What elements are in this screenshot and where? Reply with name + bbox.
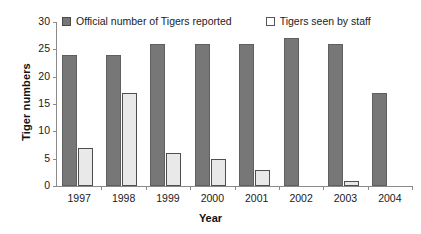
- y-tick-label: 25: [10, 42, 50, 55]
- y-tick: 10: [0, 131, 57, 132]
- y-tick-label: 20: [10, 70, 50, 83]
- y-tick: 5: [0, 159, 57, 160]
- y-tick-label: 15: [10, 97, 50, 110]
- bar-2002-series-1: [284, 38, 299, 186]
- x-tick-label: 1997: [57, 192, 101, 205]
- x-tick-mark: [235, 186, 236, 190]
- y-tick: 25: [0, 49, 57, 50]
- x-tick-label: 1998: [102, 192, 146, 205]
- x-tick-label: 2004: [368, 192, 412, 205]
- bar-2000-series-2: [211, 159, 226, 186]
- x-tick-label: 1999: [146, 192, 190, 205]
- x-tick-mark: [368, 186, 369, 190]
- bar-1998-series-1: [106, 55, 121, 186]
- y-tick: 20: [0, 77, 57, 78]
- y-tick: 0: [0, 186, 57, 187]
- plot-area: [57, 22, 412, 186]
- x-tick-mark: [146, 186, 147, 190]
- x-tick-mark: [323, 186, 324, 190]
- bar-1997-series-1: [62, 55, 77, 186]
- bar-1998-series-2: [122, 93, 137, 186]
- x-tick-mark: [190, 186, 191, 190]
- x-axis-title: Year: [0, 212, 421, 224]
- y-tick: 15: [0, 104, 57, 105]
- bar-1997-series-2: [78, 148, 93, 186]
- tiger-numbers-bar-chart: Official number of Tigers reported Tiger…: [0, 0, 421, 234]
- y-tick: 30: [0, 22, 57, 23]
- x-tick-label: 2000: [190, 192, 234, 205]
- bar-2004-series-1: [372, 93, 387, 186]
- bar-2003-series-2: [344, 181, 359, 186]
- y-tick-mark: [53, 186, 57, 187]
- x-tick-mark: [412, 186, 413, 190]
- x-tick-label: 2003: [323, 192, 367, 205]
- x-tick-mark: [101, 186, 102, 190]
- y-tick-label: 10: [10, 124, 50, 137]
- x-tick-mark: [279, 186, 280, 190]
- bar-2001-series-1: [239, 44, 254, 186]
- bar-1999-series-2: [166, 153, 181, 186]
- bar-2003-series-1: [328, 44, 343, 186]
- bar-2001-series-2: [255, 170, 270, 186]
- y-tick-label: 5: [10, 152, 50, 165]
- x-tick-label: 2002: [279, 192, 323, 205]
- bar-2000-series-1: [195, 44, 210, 186]
- bar-1999-series-1: [150, 44, 165, 186]
- y-tick-label: 30: [10, 15, 50, 28]
- y-tick-label: 0: [10, 179, 50, 192]
- x-tick-label: 2001: [235, 192, 279, 205]
